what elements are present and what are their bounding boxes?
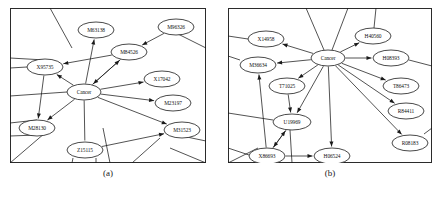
- background-edge-line: [10, 92, 67, 96]
- edge-Cancer-to-M28130: [47, 99, 74, 120]
- node-T71025[interactable]: T71025: [269, 78, 305, 94]
- node-R08183[interactable]: R08183: [392, 135, 428, 151]
- arrowhead-Cancer-to-X14958: [283, 44, 288, 48]
- background-edge-line: [306, 8, 324, 50]
- edge-M84526-to-X95735: [63, 55, 111, 64]
- background-edge-line: [50, 8, 72, 48]
- edge-Cancer-to-M23197: [101, 94, 154, 101]
- background-edge-line: [424, 128, 432, 134]
- node-X17042[interactable]: X17042: [144, 71, 180, 87]
- edge-Cancer-to-X17042: [101, 82, 144, 89]
- node-Cancer[interactable]: Cancer: [67, 84, 101, 100]
- node-label-M23197: M23197: [164, 100, 182, 106]
- edge-Cancer-to-Z15115: [84, 100, 85, 140]
- edge-Z15115-to-M31523: [102, 134, 164, 147]
- arrowhead-Cancer-to-T71025: [298, 74, 303, 78]
- node-X86693[interactable]: X86693: [249, 148, 285, 163]
- edge-M84526-to-Cancer: [93, 60, 120, 84]
- node-label-U19969: U19969: [284, 119, 301, 125]
- node-X95735[interactable]: X95735: [27, 59, 63, 75]
- background-edge-line: [176, 33, 206, 48]
- node-M63138[interactable]: M63138: [78, 22, 114, 38]
- edge-X86693-to-M36634: [259, 74, 266, 147]
- node-label-T71025: T71025: [279, 83, 296, 89]
- node-label-M96326: M96326: [167, 24, 185, 30]
- node-label-M63138: M63138: [87, 27, 105, 33]
- arrowhead-X95735-to-M28130: [37, 113, 41, 118]
- arrowhead-Cancer-to-U19969: [297, 107, 301, 112]
- background-edge-line: [132, 138, 160, 163]
- arrowhead-Cancer-to-M23197: [149, 98, 154, 102]
- background-edge-line: [228, 113, 273, 120]
- arrowhead-Cancer-to-M63138: [91, 39, 95, 44]
- arrowhead-X86693-to-M36634: [257, 74, 261, 79]
- node-M84526[interactable]: M84526: [111, 44, 147, 60]
- panel-a-network-graph: M63138M96326M84526X95735CancerX17042M231…: [10, 8, 206, 163]
- node-label-H06524: H06524: [324, 153, 341, 159]
- background-edge-line: [170, 148, 206, 163]
- node-label-H08393: H08393: [383, 55, 400, 61]
- panel-b: X14958H40560CancerH08393M36634T86473T710…: [228, 8, 432, 163]
- node-label-Cancer: Cancer: [77, 89, 92, 95]
- background-edge-line: [228, 36, 248, 39]
- node-M28130[interactable]: M28130: [19, 120, 55, 136]
- node-M23197[interactable]: M23197: [155, 95, 191, 111]
- arrowhead-M84526-to-X95735: [63, 61, 68, 65]
- node-label-H40560: H40560: [365, 33, 382, 39]
- node-label-X14958: X14958: [258, 36, 275, 42]
- arrowhead-T71025-to-U19969: [288, 107, 292, 112]
- node-label-M31523: M31523: [173, 127, 191, 133]
- arrowhead-Cancer-to-R84411: [389, 99, 394, 103]
- node-H08393[interactable]: H08393: [373, 50, 409, 66]
- node-Cancer[interactable]: Cancer: [311, 50, 345, 66]
- node-U19969[interactable]: U19969: [273, 114, 311, 130]
- node-M31523[interactable]: M31523: [164, 122, 200, 138]
- background-edge-line: [332, 8, 348, 50]
- edge-X95735-to-M28130: [38, 75, 44, 118]
- arrowhead-Cancer-to-T86473: [380, 76, 385, 80]
- arrowhead-Cancer-to-M31523: [161, 120, 166, 124]
- node-H06524[interactable]: H06524: [314, 148, 350, 163]
- node-label-M28130: M28130: [28, 125, 46, 131]
- node-H40560[interactable]: H40560: [355, 28, 391, 44]
- panel-a-caption: (a): [10, 168, 206, 178]
- background-edge-line: [228, 148, 252, 156]
- arrowhead-Cancer-to-X17042: [138, 81, 143, 85]
- node-M36634[interactable]: M36634: [240, 57, 276, 73]
- node-label-Z15115: Z15115: [77, 147, 93, 153]
- background-edge-line: [228, 56, 240, 60]
- panel-b-network-graph: X14958H40560CancerH08393M36634T86473T710…: [228, 8, 432, 163]
- background-edge-line: [290, 130, 292, 163]
- edge-Cancer-to-H06524: [328, 66, 331, 146]
- edge-Cancer-to-M36634: [277, 60, 311, 63]
- arrowhead-Z15115-to-M31523: [159, 133, 164, 137]
- node-Z15115[interactable]: Z15115: [67, 142, 103, 158]
- node-label-X17042: X17042: [154, 76, 171, 82]
- panel-b-caption: (b): [228, 168, 432, 178]
- arrowhead-M96326-to-M84526: [142, 41, 147, 45]
- arrowhead-U19969-to-X86693: [274, 142, 279, 147]
- background-edge-line: [72, 158, 73, 163]
- node-X14958[interactable]: X14958: [248, 31, 284, 47]
- arrowhead-X86693-to-H06524: [308, 154, 313, 158]
- edge-Cancer-to-M63138: [86, 39, 95, 83]
- node-label-X86693: X86693: [259, 153, 276, 159]
- node-M96326[interactable]: M96326: [158, 19, 194, 35]
- arrowhead-Cancer-to-M28130: [47, 115, 52, 120]
- node-label-T86473: T86473: [393, 83, 410, 89]
- arrowhead-Cancer-to-X95735: [57, 75, 62, 79]
- arrowhead-Cancer-to-H40560: [354, 43, 359, 47]
- background-edge-line: [10, 67, 27, 68]
- arrowhead-Cancer-to-H06524: [329, 141, 333, 146]
- node-label-Cancer: Cancer: [321, 55, 336, 61]
- background-edge-line: [409, 60, 432, 66]
- node-label-M36634: M36634: [249, 62, 267, 68]
- arrowhead-Cancer-to-H08393: [367, 56, 372, 60]
- node-R84411[interactable]: R84411: [388, 103, 424, 119]
- node-label-R08183: R08183: [402, 140, 419, 146]
- figure-container: M63138M96326M84526X95735CancerX17042M231…: [0, 0, 443, 197]
- panel-a: M63138M96326M84526X95735CancerX17042M231…: [10, 8, 206, 163]
- node-label-M84526: M84526: [120, 49, 138, 55]
- node-T86473[interactable]: T86473: [383, 78, 419, 94]
- background-edge-line: [10, 133, 45, 163]
